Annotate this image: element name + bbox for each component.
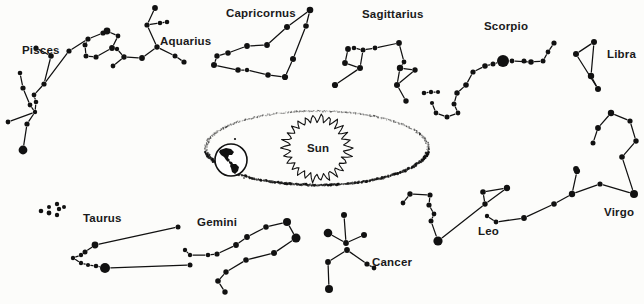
star-taurus-0 — [176, 225, 181, 230]
constellation-libra[interactable] — [573, 39, 601, 92]
star-libra-2 — [588, 73, 594, 79]
constellation-line — [272, 75, 282, 76]
star-pleiades-1 — [47, 205, 51, 209]
star-taurus-5 — [94, 264, 99, 269]
constellation-line — [91, 34, 100, 37]
star-pisces-19 — [84, 54, 89, 59]
star-capricornus-11 — [290, 56, 296, 62]
constellation-label-aquarius: Aquarius — [160, 36, 211, 48]
star-virgo-10 — [551, 201, 557, 207]
star-gemini-10 — [243, 257, 249, 263]
constellation-cancer[interactable] — [324, 212, 377, 293]
star-pisces-11 — [41, 81, 46, 86]
constellation-line — [307, 14, 309, 23]
constellation-scorpio[interactable] — [422, 40, 557, 119]
star-virgo-0 — [608, 110, 614, 116]
constellation-line — [294, 29, 304, 55]
star-capricornus-9 — [265, 72, 271, 78]
star-aquarius-0 — [152, 5, 158, 11]
star-gemini-2 — [244, 234, 250, 240]
star-cancer-7 — [364, 261, 369, 266]
constellation-line — [127, 57, 138, 58]
constellation-line — [220, 275, 223, 279]
constellation-line — [328, 266, 329, 285]
constellation-line — [229, 262, 243, 270]
star-aquarius-9 — [173, 54, 178, 59]
constellation-taurus[interactable] — [71, 225, 193, 274]
constellation-line — [624, 144, 633, 155]
constellation-line — [150, 23, 157, 24]
star-taurus-8 — [100, 263, 110, 273]
constellation-pleiades[interactable] — [39, 202, 66, 217]
star-pisces-16 — [116, 34, 121, 39]
constellation-line — [24, 91, 28, 102]
star-scorpio-19 — [429, 90, 433, 94]
star-sagittarius-7 — [396, 40, 402, 46]
constellation-line — [399, 88, 404, 98]
star-cancer-4 — [325, 259, 331, 265]
constellation-line — [32, 108, 33, 110]
star-virgo-7 — [630, 190, 638, 198]
star-pisces-6 — [6, 120, 11, 125]
constellation-line — [361, 53, 363, 64]
constellation-label-cancer: Cancer — [372, 257, 412, 269]
constellation-line — [111, 265, 187, 268]
constellation-line — [270, 223, 283, 226]
constellation-line — [527, 206, 550, 217]
constellation-label-gemini: Gemini — [197, 217, 237, 229]
constellation-line — [400, 72, 412, 82]
constellation-line — [289, 226, 293, 233]
star-taurus-1 — [92, 242, 99, 249]
constellation-sagittarius[interactable] — [332, 40, 418, 104]
star-cancer-5 — [325, 285, 333, 293]
star-pisces-5 — [33, 110, 37, 114]
star-capricornus-4 — [225, 50, 231, 56]
star-pisces-13 — [85, 36, 90, 41]
constellation-line — [24, 127, 27, 145]
constellation-line — [450, 114, 455, 116]
star-taurus-3 — [79, 253, 83, 257]
star-pleiades-0 — [55, 202, 59, 206]
star-aquarius-4 — [154, 44, 159, 49]
star-virgo-13 — [485, 214, 489, 218]
star-capricornus-10 — [282, 74, 288, 80]
constellation-label-pisces: Pisces — [22, 45, 60, 57]
constellation-line — [615, 115, 627, 120]
constellation-line — [119, 51, 122, 54]
star-virgo-2 — [591, 141, 596, 146]
constellation-line — [455, 107, 456, 110]
star-gemini-7 — [183, 248, 187, 252]
constellation-line — [148, 28, 155, 44]
star-scorpio-2 — [541, 59, 546, 64]
constellation-label-leo: Leo — [478, 226, 499, 238]
star-libra-0 — [591, 39, 597, 45]
star-sagittarius-9 — [397, 65, 403, 71]
star-scorpio-20 — [436, 90, 440, 94]
constellation-line — [484, 196, 485, 201]
constellation-line — [631, 124, 635, 137]
star-virgo-5 — [619, 154, 625, 160]
constellation-gemini[interactable] — [183, 218, 301, 295]
star-leo-6 — [426, 202, 431, 207]
star-leo-4 — [429, 219, 434, 224]
star-aquarius-5 — [139, 55, 145, 61]
constellation-line — [145, 49, 154, 56]
constellation-line — [432, 224, 436, 236]
star-aquarius-7 — [115, 47, 119, 51]
star-capricornus-8 — [245, 68, 249, 72]
constellation-line — [557, 196, 568, 202]
star-scorpio-5 — [510, 59, 515, 64]
star-scorpio-9 — [482, 63, 488, 69]
star-virgo-11 — [521, 215, 527, 221]
constellation-line — [251, 45, 264, 46]
constellation-line — [36, 87, 42, 93]
constellation-line — [476, 68, 482, 71]
star-sagittarius-5 — [342, 60, 348, 66]
star-pisces-17 — [109, 45, 115, 51]
star-sagittarius-10 — [412, 67, 417, 72]
star-capricornus-5 — [214, 53, 219, 58]
constellation-line — [366, 49, 372, 50]
star-pisces-18 — [93, 54, 98, 59]
star-sagittarius-12 — [403, 98, 408, 103]
constellation-line — [499, 219, 520, 222]
